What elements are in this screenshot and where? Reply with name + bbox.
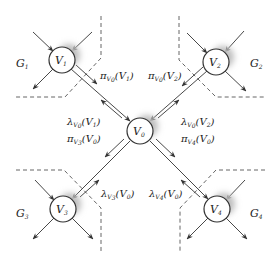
node-v0: V0: [127, 118, 153, 144]
lambda-arrow-v0-to-v1: [101, 100, 122, 118]
node-v1: V1: [49, 47, 75, 73]
out-arrow-v4-right: [226, 218, 247, 239]
pi-arrow-v0-to-v3: [105, 139, 124, 157]
message-label-pi-v3-v0: πV3(V0): [66, 133, 101, 146]
pi-arrow-v0-to-v4: [156, 139, 175, 157]
node-v4: V4: [204, 196, 230, 222]
message-label-lambda-v4-v0: λV4(V0): [148, 188, 182, 201]
group-label-g3: G3: [16, 207, 29, 220]
group-label-g2: G2: [250, 57, 263, 70]
node-v3: V3: [50, 196, 76, 222]
group-label-g1: G1: [16, 57, 29, 70]
in-arrow-v1-left: [33, 32, 53, 51]
out-arrow-v2: [225, 71, 246, 91]
out-arrow-v3-left: [33, 218, 54, 239]
in-arrow-v2-left: [187, 33, 207, 53]
belief-propagation-diagram: V1 V2 V0 V3 V4 G1 G2 G3 G4 πV0(V1) πV0(V…: [0, 0, 279, 266]
group-label-g4: G4: [250, 207, 263, 220]
in-arrow-v3: [35, 180, 54, 200]
message-label-pi-v0-v2: πV0(V2): [147, 70, 182, 83]
out-arrow-v4-left: [187, 218, 208, 239]
message-label-pi-v0-v1: πV0(V1): [99, 70, 134, 83]
out-arrow-v3-right: [72, 218, 93, 239]
message-label-pi-v4-v0: πV4(V0): [180, 133, 215, 146]
node-v2: V2: [203, 49, 229, 75]
message-label-lambda-v0-v2: λV0(V2): [180, 116, 214, 129]
out-arrow-v1: [33, 69, 53, 89]
message-label-lambda-v0-v1: λV0(V1): [66, 116, 100, 129]
message-label-lambda-v3-v0: λV3(V0): [100, 188, 134, 201]
lambda-arrow-v0-to-v2: [158, 100, 179, 118]
